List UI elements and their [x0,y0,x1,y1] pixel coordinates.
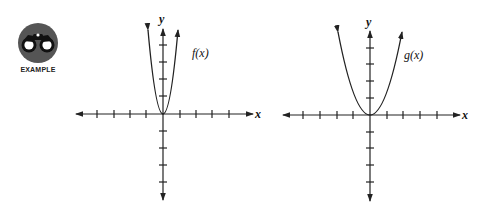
x-axis-label-g: x [461,108,468,122]
function-label-f: f(x) [192,46,209,60]
y-axis-label-g: y [364,15,372,29]
graphs-canvas: y x f(x) y x g(x) [0,0,482,210]
y-axis-label-f: y [157,12,165,26]
graph-f [76,29,253,200]
graph-g [283,31,460,201]
function-label-g: g(x) [404,48,423,62]
x-axis-label-f: x [254,107,261,121]
